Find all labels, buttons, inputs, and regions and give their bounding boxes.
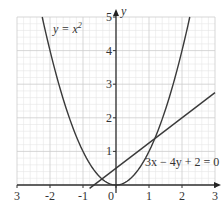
straight-line (90, 93, 215, 189)
y-tick-label: 1 (106, 144, 112, 158)
x-tick-label: -2 (45, 189, 55, 203)
x-tick-label: 0 (108, 189, 114, 203)
x-tick-label: 2 (179, 189, 185, 203)
x-tick-label: 3 (212, 189, 218, 203)
x-tick-label: 1 (146, 189, 152, 203)
x-tick-label: 3 (14, 189, 20, 203)
y-axis-label: y (120, 4, 127, 18)
parabola-label-exponent: 2 (78, 21, 82, 30)
x-tick-label: -1 (78, 189, 88, 203)
graph: 3-2-1012312345yy = x23x − 4y + 2 = 0 (0, 0, 222, 207)
line-label: 3x − 4y + 2 = 0 (145, 155, 219, 169)
parabola-label: y = x2 (52, 21, 82, 36)
y-tick-label: 5 (106, 10, 112, 24)
y-tick-label: 2 (106, 111, 112, 125)
y-tick-label: 3 (106, 77, 112, 91)
y-tick-label: 4 (106, 44, 112, 58)
y-axis-arrow-icon (113, 9, 119, 16)
